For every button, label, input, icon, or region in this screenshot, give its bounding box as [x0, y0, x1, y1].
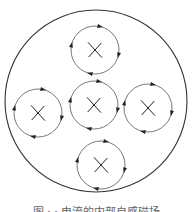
field-direction-arrow-icon	[86, 126, 92, 131]
field-direction-arrow-icon	[59, 115, 64, 121]
field-direction-arrow-icon	[69, 42, 74, 48]
filament-bottom	[75, 139, 127, 191]
field-direction-arrow-icon	[122, 100, 127, 106]
field-direction-arrow-icon	[75, 157, 80, 163]
field-direction-arrow-icon	[115, 107, 120, 113]
filament-center	[68, 79, 120, 131]
field-direction-arrow-icon	[68, 97, 73, 103]
field-direction-arrow-icon	[116, 52, 121, 58]
field-direction-arrow-icon	[87, 71, 93, 76]
field-direction-arrow-icon	[12, 105, 17, 111]
field-direction-arrow-icon	[150, 82, 156, 87]
field-direction-arrow-icon	[169, 110, 174, 116]
field-direction-arrow-icon	[30, 134, 36, 139]
outer-conductor-circle	[5, 10, 187, 192]
filament-right	[122, 82, 174, 134]
figure-caption: 图 · · 电流的内部自感磁场	[0, 203, 193, 212]
filament-group	[12, 24, 174, 191]
field-direction-arrow-icon	[40, 87, 46, 92]
diagram-canvas	[0, 0, 193, 212]
field-direction-arrow-icon	[103, 139, 109, 144]
field-direction-arrow-icon	[122, 167, 127, 173]
field-direction-arrow-icon	[93, 186, 99, 191]
filament-top	[69, 24, 121, 76]
field-direction-arrow-icon	[97, 24, 103, 29]
field-direction-arrow-icon	[140, 129, 146, 134]
field-direction-arrow-icon	[96, 79, 102, 84]
filament-left	[12, 87, 64, 139]
